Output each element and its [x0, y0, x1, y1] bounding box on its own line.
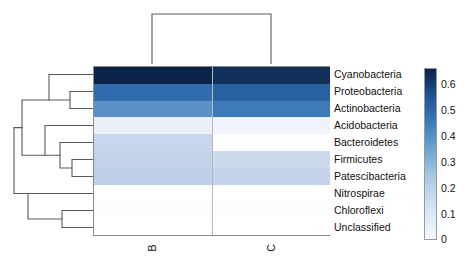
- colorbar-tick-labels: 0.6 0.5 0.4 0.3 0.2 0.1 0: [441, 68, 473, 240]
- heatmap-cell-firmicutes-c[interactable]: [212, 151, 331, 169]
- row-label-cyanobacteria: Cyanobacteria: [334, 69, 434, 80]
- heatmap-cell-bacteroidetes-b[interactable]: [94, 134, 212, 152]
- heatmap-cell-proteobacteria-c[interactable]: [212, 84, 331, 102]
- heatmap-cell-bacteroidetes-c[interactable]: [212, 134, 331, 152]
- column-label-b: B: [142, 189, 162, 259]
- heatmap-cell-actinobacteria-c[interactable]: [212, 101, 331, 119]
- heatmap-cell-patescibacteria-c[interactable]: [212, 168, 331, 186]
- column-label-list: B C: [93, 238, 330, 258]
- colorbar-tick-0: 0: [441, 233, 447, 245]
- column-merge-link: [152, 14, 271, 64]
- heatmap-cell-cyanobacteria-c[interactable]: [212, 67, 331, 85]
- colorbar-tick-0.2: 0.2: [441, 182, 456, 194]
- row-label-bacteroidetes: Bacteroidetes: [334, 137, 434, 148]
- heatmap-cell-acidobacteria-b[interactable]: [94, 117, 212, 135]
- colorbar-tick-0.4: 0.4: [441, 130, 456, 142]
- row-label-actinobacteria: Actinobacteria: [334, 103, 434, 114]
- row-label-proteobacteria: Proteobacteria: [334, 86, 434, 97]
- heatmap-cell-proteobacteria-b[interactable]: [94, 84, 212, 102]
- link-cyano-cluster: [49, 75, 93, 101]
- heatmap-cell-patescibacteria-b[interactable]: [94, 168, 212, 186]
- heatmap-cell-cyanobacteria-b[interactable]: [94, 67, 212, 85]
- row-label-firmicutes: Firmicutes: [334, 154, 434, 165]
- row-label-list: Cyanobacteria Proteobacteria Actinobacte…: [334, 66, 434, 236]
- heatmap-grid[interactable]: [93, 66, 330, 236]
- row-label-chloroflexi: Chloroflexi: [334, 205, 434, 216]
- colorbar-gradient: [424, 68, 437, 240]
- colorbar: 0.6 0.5 0.4 0.3 0.2 0.1 0: [424, 68, 474, 240]
- link-firmi-pates: [72, 160, 93, 177]
- row-label-nitrospirae: Nitrospirae: [334, 188, 434, 199]
- heatmap-cell-actinobacteria-b[interactable]: [94, 101, 212, 119]
- clustermap-figure: Cyanobacteria Proteobacteria Actinobacte…: [0, 0, 474, 259]
- link-chloro-unclass: [62, 211, 93, 228]
- colorbar-tick-0.6: 0.6: [441, 78, 456, 90]
- heatmap-cell-acidobacteria-c[interactable]: [212, 117, 331, 135]
- heatmap-cell-firmicutes-b[interactable]: [94, 151, 212, 169]
- colorbar-tick-0.1: 0.1: [441, 208, 456, 220]
- colorbar-tick-0.5: 0.5: [441, 104, 456, 116]
- row-label-acidobacteria: Acidobacteria: [334, 120, 434, 131]
- column-dendrogram: [0, 0, 474, 64]
- link-upper-supercluster: [22, 100, 49, 155]
- link-root: [14, 128, 28, 194]
- link-bacteroid-cluster: [60, 143, 93, 169]
- link-acido-cluster: [45, 126, 93, 156]
- link-proteo-actino: [70, 92, 93, 109]
- colorbar-tick-0.3: 0.3: [441, 156, 456, 168]
- row-label-patescibacteria: Patescibacteria: [334, 171, 434, 182]
- row-label-unclassified: Unclassified: [334, 222, 434, 233]
- column-label-c: C: [261, 189, 281, 259]
- link-nitro-cluster: [28, 194, 93, 220]
